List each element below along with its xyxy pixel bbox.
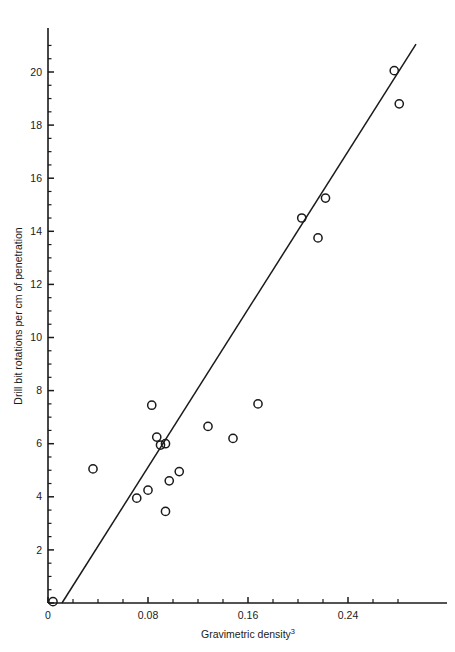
x-tick-label: 0.08 <box>138 609 159 621</box>
data-point-marker <box>89 465 97 473</box>
y-tick-label: 6 <box>36 437 42 449</box>
data-point-marker <box>175 467 183 475</box>
y-tick-label: 20 <box>30 66 42 78</box>
data-point-marker <box>133 494 141 502</box>
y-axis-title: Drill bit rotations per cm of penetratio… <box>12 227 24 405</box>
y-axis-tick-labels: 2468101214161820 <box>30 66 42 556</box>
data-point-marker <box>390 67 398 75</box>
x-tick-label: 0.16 <box>238 609 259 621</box>
data-point-marker <box>204 422 212 430</box>
y-tick-label: 12 <box>30 278 42 290</box>
y-axis-ticks <box>48 45 54 603</box>
x-axis-tick-labels: 00.080.160.24 <box>45 609 358 621</box>
data-point-marker <box>148 401 156 409</box>
y-tick-label: 18 <box>30 119 42 131</box>
y-tick-label: 16 <box>30 172 42 184</box>
data-point-marker <box>153 433 161 441</box>
y-tick-label: 4 <box>36 490 42 502</box>
y-tick-label: 10 <box>30 331 42 343</box>
data-point-marker <box>298 214 306 222</box>
regression-line-segment <box>62 44 416 603</box>
data-point-marker <box>165 477 173 485</box>
y-tick-label: 2 <box>36 544 42 556</box>
data-point-marker <box>161 507 169 515</box>
chart-svg: 2468101214161820 00.080.160.24 Drill bit… <box>0 0 455 652</box>
y-tick-label: 14 <box>30 225 42 237</box>
data-point-marker <box>49 598 57 606</box>
data-point-marker <box>144 486 152 494</box>
data-point-marker <box>314 234 322 242</box>
scatter-plot-figure: 2468101214161820 00.080.160.24 Drill bit… <box>0 0 455 652</box>
y-tick-label: 8 <box>36 384 42 396</box>
data-point-marker <box>229 434 237 442</box>
x-tick-label: 0 <box>45 609 51 621</box>
data-point-marker <box>254 400 262 408</box>
x-axis-ticks <box>48 597 398 603</box>
x-axis-title: Gravimetric density3 <box>201 627 295 640</box>
x-tick-label: 0.24 <box>338 609 359 621</box>
data-point-marker <box>395 100 403 108</box>
data-point-marker <box>321 194 329 202</box>
regression-line <box>62 44 416 603</box>
